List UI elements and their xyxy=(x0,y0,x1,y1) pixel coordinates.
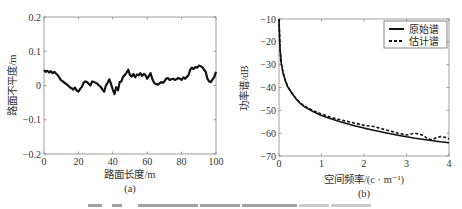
xtick-label: 1 xyxy=(319,158,324,169)
ytick-label: −50 xyxy=(260,105,276,116)
plot-a-ticks xyxy=(44,17,216,154)
xtick-label: 4 xyxy=(447,158,452,169)
panel-a-road-roughness: 020406080100 0.20.10−0.1−0.2 路面长度/m (a) … xyxy=(6,12,224,196)
ytick-label: −60 xyxy=(260,128,276,139)
panel-b-power-spectrum: 01234 −10−20−30−40−50−60−70 空间频率/(c · m⁻… xyxy=(238,14,452,201)
plot-a-panel-label: (a) xyxy=(124,183,136,195)
xtick-label: 2 xyxy=(362,158,367,169)
ytick-label: −0.2 xyxy=(23,149,41,160)
legend-label-estimated: 估计谱 xyxy=(409,35,439,47)
xtick-label: 20 xyxy=(73,156,83,167)
figure-caption-clipped xyxy=(88,204,388,209)
ytick-label: −20 xyxy=(260,36,276,47)
ytick-label: −70 xyxy=(260,151,276,162)
plot-a-ytick-labels: 0.20.10−0.1−0.2 xyxy=(23,12,41,160)
legend: 原始谱 估计谱 xyxy=(384,21,447,48)
xtick-label: 80 xyxy=(177,156,187,167)
plot-a-series xyxy=(44,66,216,95)
xtick-label: 40 xyxy=(108,156,118,167)
ytick-label: −40 xyxy=(260,82,276,93)
ytick-label: −0.1 xyxy=(23,114,41,125)
plot-b-panel-label: (b) xyxy=(358,188,371,200)
xtick-label: 100 xyxy=(209,156,224,167)
plot-a-frame xyxy=(44,17,216,154)
legend-label-original: 原始谱 xyxy=(409,23,439,35)
plot-a-xtick-labels: 020406080100 xyxy=(42,156,224,167)
xtick-label: 0 xyxy=(277,158,282,169)
plot-b-ylabel: 功率谱/dB xyxy=(238,65,250,110)
ytick-label: −10 xyxy=(260,14,276,25)
xtick-label: 0 xyxy=(42,156,47,167)
plot-b-xlabel: 空间频率/(c · m⁻¹) xyxy=(324,173,405,186)
figure: 020406080100 0.20.10−0.1−0.2 路面长度/m (a) … xyxy=(0,0,462,209)
xtick-label: 3 xyxy=(404,158,409,169)
xtick-label: 60 xyxy=(142,156,152,167)
plot-b-ytick-labels: −10−20−30−40−50−60−70 xyxy=(260,14,276,162)
plot-a-ylabel: 路面不平度/m xyxy=(6,54,18,115)
plot-b-xtick-labels: 01234 xyxy=(277,158,452,169)
ytick-label: 0.2 xyxy=(29,12,42,23)
ytick-label: −30 xyxy=(260,59,276,70)
series-line-roughness xyxy=(44,66,216,95)
plot-a-xlabel: 路面长度/m xyxy=(104,168,155,180)
ytick-label: 0.1 xyxy=(29,46,42,57)
ytick-label: 0 xyxy=(36,80,41,91)
